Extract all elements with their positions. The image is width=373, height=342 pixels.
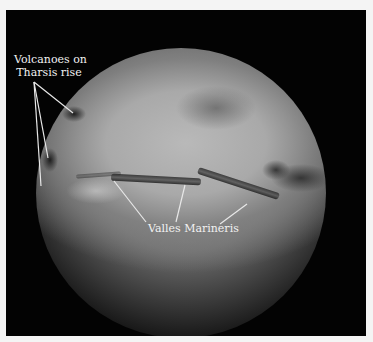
tharsis-label-line2: Tharsis rise [14,66,84,79]
valles-marineris-label: Valles Marineris [148,222,239,235]
tharsis-pointer-3 [34,82,41,186]
annotation-pointer-lines [0,0,373,342]
tharsis-label-line1: Volcanoes on [14,53,84,66]
tharsis-pointer-1 [34,82,73,113]
tharsis-label: Volcanoes on Tharsis rise [14,53,84,79]
valles-pointer-3 [220,204,247,224]
valles-pointer-1 [114,181,146,222]
valles-pointer-2 [176,185,185,222]
